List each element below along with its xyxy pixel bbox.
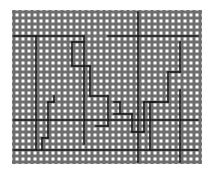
grid-lattice bbox=[0, 0, 216, 176]
maze-canvas bbox=[0, 0, 216, 176]
